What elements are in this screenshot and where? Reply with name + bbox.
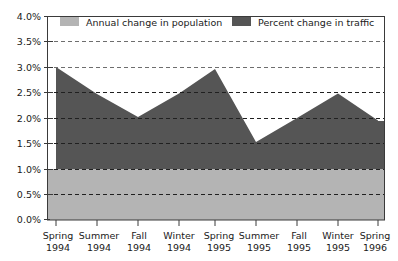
ytick-label-0-0: 0.0%	[17, 214, 41, 225]
xtick-label-4-season: Spring	[204, 230, 235, 241]
xtick-label-1-year: 1994	[87, 242, 111, 253]
xtick-label-3-year: 1994	[167, 242, 191, 253]
ytick-label-3-5: 3.5%	[17, 36, 41, 47]
ytick-label-0-5: 0.5%	[17, 189, 41, 200]
xtick-label-6-season: Fall	[291, 230, 307, 241]
legend-label-percent-change-in-traffic: Percent change in traffic	[258, 17, 374, 28]
xtick-label-0-season: Spring	[43, 230, 74, 241]
xtick-label-2-year: 1994	[127, 242, 151, 253]
ytick-label-2-0: 2.0%	[17, 113, 41, 124]
legend-label-annual-change-in-population: Annual change in population	[86, 17, 222, 28]
xtick-label-6-year: 1995	[287, 242, 311, 253]
chart-container: 4.0% 3.5% 3.0% 2.5% 2.0% 1.5% 1.0% 0.5% …	[0, 0, 398, 261]
xtick-label-1-season: Summer	[79, 230, 119, 241]
ytick-label-1-0: 1.0%	[17, 164, 41, 175]
xtick-label-5-year: 1995	[247, 242, 271, 253]
xtick-label-3-season: Winter	[163, 230, 194, 241]
ytick-label-1-5: 1.5%	[17, 138, 41, 149]
xtick-label-0-year: 1994	[46, 242, 70, 253]
xtick-label-2-season: Fall	[131, 230, 147, 241]
ytick-label-4-0: 4.0%	[17, 11, 41, 22]
area-chart: 4.0% 3.5% 3.0% 2.5% 2.0% 1.5% 1.0% 0.5% …	[0, 0, 398, 261]
xtick-label-7-season: Winter	[322, 230, 353, 241]
legend-swatch-annual-change-in-population	[60, 17, 79, 26]
ytick-label-3-0: 3.0%	[17, 62, 41, 73]
xtick-label-8-season: Spring	[360, 230, 391, 241]
legend-swatch-percent-change-in-traffic	[232, 17, 251, 26]
plot-right-gap	[378, 16, 385, 121]
xtick-label-4-year: 1995	[207, 242, 231, 253]
ytick-label-2-5: 2.5%	[17, 87, 41, 98]
xtick-label-8-year: 1996	[363, 242, 387, 253]
xtick-label-5-season: Summer	[239, 230, 279, 241]
xtick-label-7-year: 1995	[326, 242, 350, 253]
legend: Annual change in population Percent chan…	[60, 17, 374, 28]
